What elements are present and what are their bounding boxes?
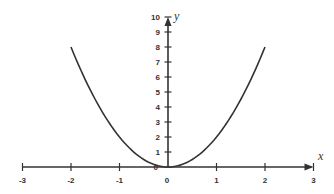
y-tick-label: 1 — [156, 148, 161, 157]
x-axis-label: x — [317, 149, 324, 163]
x-tick-label: 0 — [165, 176, 170, 185]
y-axis-arrow-icon — [165, 17, 172, 26]
y-tick-label: 8 — [156, 43, 161, 52]
x-tick-label: -3 — [19, 176, 27, 185]
y-axis-label: y — [173, 9, 180, 23]
y-tick-label: 5 — [156, 88, 161, 97]
x-tick-label: 1 — [214, 176, 219, 185]
y-tick-label: 3 — [156, 118, 161, 127]
x-tick-label: -1 — [116, 176, 124, 185]
y-tick-label: 4 — [156, 103, 161, 112]
y-tick-label: 10 — [151, 13, 160, 22]
y-tick-label: 7 — [156, 58, 161, 67]
x-tick-label: 2 — [263, 176, 268, 185]
y-tick-label: 6 — [156, 73, 161, 82]
x-tick-label: 3 — [311, 176, 316, 185]
y-tick-label: 9 — [156, 28, 161, 37]
x-tick-label: -2 — [67, 176, 75, 185]
x-axis-arrow-icon — [305, 164, 314, 171]
parabola-chart: -3-2-10123123456789100 x y — [0, 0, 334, 194]
y-tick-label: 2 — [156, 133, 161, 142]
axes — [23, 17, 314, 171]
